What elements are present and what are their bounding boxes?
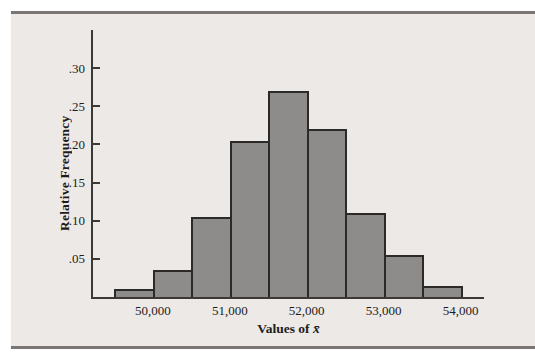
x-axis-line [91, 297, 484, 299]
figure-panel: Relative Frequency .05.10.15.20.25.30 50… [11, 14, 535, 346]
y-tick-label: .25 [43, 98, 85, 115]
y-tick-mark [93, 143, 100, 145]
y-tick-label: .05 [43, 250, 85, 267]
histogram-bar [114, 289, 154, 297]
y-tick-label: .10 [43, 212, 85, 229]
y-tick-label: .15 [43, 174, 85, 191]
x-tick-label: 51,000 [195, 302, 265, 319]
x-axis-title-text: Values of [257, 321, 313, 336]
histogram-bar [191, 217, 231, 297]
histogram-bar [268, 91, 308, 297]
y-tick-mark [93, 67, 100, 69]
y-tick-mark [93, 258, 100, 260]
x-tick-label: 54,000 [426, 302, 496, 319]
bottom-border-rule [11, 346, 535, 349]
y-tick-mark [93, 105, 100, 107]
x-tick-label: 52,000 [272, 302, 342, 319]
x-tick-label: 53,000 [349, 302, 419, 319]
histogram-bar [384, 255, 424, 297]
histogram-bar [307, 129, 347, 297]
y-axis-title: Relative Frequency [56, 38, 73, 308]
histogram-bar [345, 213, 385, 297]
x-axis-title: Values of x̄ [93, 321, 484, 337]
histogram-bar [422, 286, 462, 297]
x-bar-symbol: x̄ [313, 321, 320, 336]
page: { "figure": { "page_background": "#FFFFF… [0, 0, 535, 360]
histogram-bar [153, 270, 193, 297]
y-tick-label: .20 [43, 136, 85, 153]
y-tick-label: .30 [43, 60, 85, 77]
plot-area: .05.10.15.20.25.30 50,00051,00052,00053,… [93, 30, 484, 297]
histogram-bar [230, 141, 270, 297]
y-tick-mark [93, 182, 100, 184]
x-tick-label: 50,000 [118, 302, 188, 319]
y-tick-mark [93, 220, 100, 222]
